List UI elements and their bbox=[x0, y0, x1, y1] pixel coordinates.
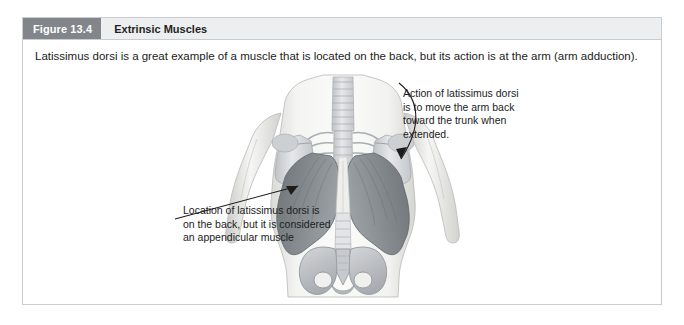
figure-box: Figure 13.4 Extrinsic Muscles Latissimus… bbox=[22, 17, 662, 305]
figure-number-badge: Figure 13.4 bbox=[23, 18, 101, 39]
figure-caption: Latissimus dorsi is a great example of a… bbox=[35, 49, 649, 64]
figure-header: Figure 13.4 Extrinsic Muscles bbox=[23, 18, 661, 40]
posterior-torso-diagram-svg bbox=[23, 73, 663, 305]
lumbar-spine bbox=[335, 213, 351, 249]
anatomy-illustration: Action of latissimus dorsi is to move th… bbox=[23, 73, 663, 305]
figure-title: Extrinsic Muscles bbox=[101, 18, 207, 39]
annotation-location-text: Location of latissimus dorsi is on the b… bbox=[183, 204, 333, 245]
annotation-action-text: Action of latissimus dorsi is to move th… bbox=[403, 87, 527, 141]
